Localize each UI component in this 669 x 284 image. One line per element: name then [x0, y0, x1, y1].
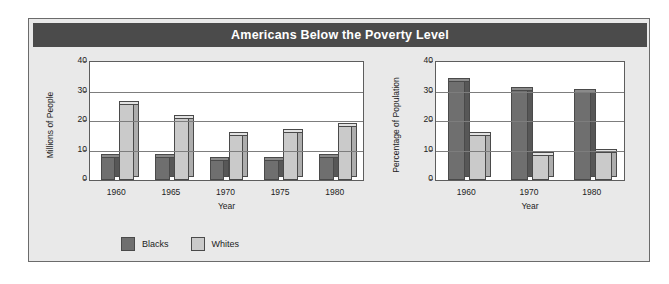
y-tick-mark — [83, 61, 87, 62]
x-tick-label: 1975 — [271, 187, 290, 197]
gridline — [436, 151, 624, 152]
bar-top — [264, 157, 284, 161]
bar-top — [469, 132, 491, 136]
bar-top — [511, 87, 533, 91]
bar-whites-1970 — [532, 155, 549, 180]
bar-face — [210, 160, 225, 180]
y-tick-mark — [83, 150, 87, 151]
bar-blacks-1965 — [155, 157, 170, 180]
bar-blacks-1975 — [264, 160, 279, 180]
legend-item-whites: Whites — [191, 237, 240, 251]
x-axis-ticks: 196019701980 — [435, 187, 625, 199]
x-tick-label: 1970 — [520, 187, 539, 197]
chart-legend: Blacks Whites — [121, 237, 239, 251]
y-tick-mark — [429, 150, 433, 151]
y-tick-label: 40 — [399, 55, 433, 65]
gridline — [436, 121, 624, 122]
bar-face — [174, 118, 189, 180]
bar-face — [319, 157, 334, 180]
y-tick-label: 0 — [53, 173, 87, 183]
y-tick-label: 0 — [399, 173, 433, 183]
bar-face — [338, 126, 353, 180]
y-axis-ticks: 010203040 — [395, 61, 433, 181]
y-tick-mark — [429, 61, 433, 62]
bar-face — [448, 81, 465, 180]
legend-swatch-whites — [191, 237, 205, 251]
x-tick-label: 1960 — [457, 187, 476, 197]
bar-whites-1965 — [174, 118, 189, 180]
bar-blacks-1980 — [319, 157, 334, 180]
bar-side — [298, 129, 303, 177]
bar-side — [189, 115, 194, 177]
y-tick-label: 30 — [399, 85, 433, 95]
bar-whites-1960 — [469, 135, 486, 180]
legend-item-blacks: Blacks — [121, 237, 169, 251]
plot-area — [89, 61, 364, 181]
chart-title-banner: Americans Below the Poverty Level — [33, 23, 647, 47]
y-tick-mark — [429, 91, 433, 92]
y-axis-ticks: 010203040 — [49, 61, 87, 181]
bar-whites-1960 — [119, 104, 134, 180]
bar-top — [210, 157, 230, 161]
bar-top — [119, 101, 139, 105]
bar-whites-1970 — [229, 135, 244, 180]
bar-top — [229, 132, 249, 136]
bar-face — [511, 90, 528, 180]
legend-label-whites: Whites — [212, 239, 240, 249]
poverty-chart-figure: Americans Below the Poverty Level Millio… — [28, 18, 650, 262]
y-tick-mark — [83, 91, 87, 92]
y-tick-mark — [83, 120, 87, 121]
bar-blacks-1970 — [511, 90, 528, 180]
gridline — [90, 151, 363, 152]
y-tick-mark — [83, 179, 87, 180]
bar-top — [532, 152, 554, 156]
x-tick-label: 1965 — [161, 187, 180, 197]
x-tick-label: 1980 — [582, 187, 601, 197]
x-tick-label: 1970 — [216, 187, 235, 197]
bar-whites-1980 — [338, 126, 353, 180]
bar-blacks-1960 — [101, 157, 116, 180]
x-axis-label: Year — [435, 201, 625, 211]
y-tick-label: 20 — [53, 114, 87, 124]
bar-face — [595, 152, 612, 180]
bar-top — [101, 154, 121, 158]
y-tick-label: 30 — [53, 85, 87, 95]
bar-face — [229, 135, 244, 180]
gridline — [90, 121, 363, 122]
bar-face — [155, 157, 170, 180]
bar-side — [612, 149, 617, 177]
gridline — [90, 92, 363, 93]
gridline — [436, 92, 624, 93]
bar-face — [574, 92, 591, 180]
x-axis-label: Year — [89, 201, 364, 211]
bar-blacks-1980 — [574, 92, 591, 180]
bar-side — [486, 132, 491, 177]
bar-whites-1980 — [595, 152, 612, 180]
bar-side — [134, 101, 139, 177]
bar-face — [119, 104, 134, 180]
bar-face — [264, 160, 279, 180]
bar-face — [532, 155, 549, 180]
chart-millions-of-people: Millions of People 010203040 19601965197… — [43, 53, 373, 223]
x-tick-label: 1980 — [325, 187, 344, 197]
bar-blacks-1970 — [210, 160, 225, 180]
bar-top — [155, 154, 175, 158]
x-tick-label: 1960 — [107, 187, 126, 197]
bar-top — [319, 154, 339, 158]
legend-swatch-blacks — [121, 237, 135, 251]
bar-side — [243, 132, 248, 177]
y-tick-mark — [429, 120, 433, 121]
y-tick-label: 40 — [53, 55, 87, 65]
y-tick-label: 10 — [399, 144, 433, 154]
y-tick-label: 20 — [399, 114, 433, 124]
bar-face — [101, 157, 116, 180]
bar-face — [283, 132, 298, 180]
y-tick-label: 10 — [53, 144, 87, 154]
bar-face — [469, 135, 486, 180]
bar-whites-1975 — [283, 132, 298, 180]
bar-blacks-1960 — [448, 81, 465, 180]
bar-top — [338, 123, 358, 127]
bar-top — [448, 78, 470, 82]
chart-percentage-of-population: Percentage of Population 010203040 19601… — [389, 53, 639, 223]
plot-area — [435, 61, 625, 181]
